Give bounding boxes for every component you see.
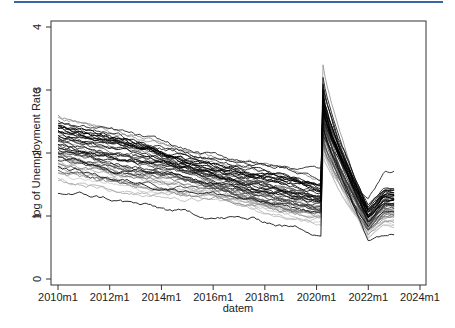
- x-tick-label: 2010m1: [38, 291, 78, 303]
- x-tick-label: 2020m1: [297, 291, 337, 303]
- x-tick-label: 2012m1: [90, 291, 130, 303]
- x-tick-label: 2014m1: [142, 291, 182, 303]
- x-axis-title: datem: [223, 302, 254, 314]
- x-tick-label: 2024m1: [400, 291, 440, 303]
- x-axis: 2010m12012m12014m12016m12018m12020m12022…: [38, 285, 440, 303]
- y-tick-label: 4: [31, 24, 43, 30]
- y-tick-label: 0: [31, 276, 43, 282]
- y-axis-title: log of Unemployment Rate: [30, 88, 42, 218]
- line-chart: 01234 2010m12012m12014m12016m12018m12020…: [0, 0, 455, 328]
- series-lines: [58, 65, 394, 241]
- x-tick-label: 2022m1: [348, 291, 388, 303]
